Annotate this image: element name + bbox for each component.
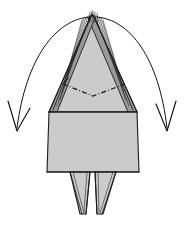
rectangular-body-face <box>47 112 139 172</box>
rectangular-body <box>47 112 139 172</box>
origami-diagram <box>0 0 185 225</box>
diagram-canvas <box>0 0 185 225</box>
